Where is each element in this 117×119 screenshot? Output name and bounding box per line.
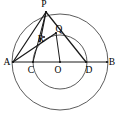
vertex-dot-B bbox=[106, 61, 108, 63]
vertex-dots-group bbox=[12, 11, 108, 63]
segment-QO bbox=[56, 33, 60, 62]
segments-group bbox=[13, 12, 107, 62]
vertex-dot-A bbox=[12, 61, 14, 63]
vertex-dot-O bbox=[59, 61, 61, 63]
figure-canvas: P Q R A C O D B bbox=[0, 0, 117, 119]
point-label-R: R bbox=[38, 34, 45, 44]
point-label-P: P bbox=[41, 0, 46, 9]
point-label-A: A bbox=[4, 57, 11, 67]
geometry-figure: P Q R A C O D B bbox=[0, 0, 117, 119]
point-label-Q: Q bbox=[56, 24, 63, 34]
point-label-C: C bbox=[28, 65, 34, 75]
vertex-dot-C bbox=[32, 61, 34, 63]
vertex-dot-D bbox=[85, 61, 87, 63]
point-label-B: B bbox=[109, 57, 115, 67]
point-label-D: D bbox=[86, 65, 93, 75]
point-labels-group: P Q R A C O D B bbox=[4, 0, 116, 75]
segment-PD bbox=[46, 12, 86, 62]
point-label-O: O bbox=[55, 65, 62, 75]
vertex-dot-P bbox=[45, 11, 47, 13]
